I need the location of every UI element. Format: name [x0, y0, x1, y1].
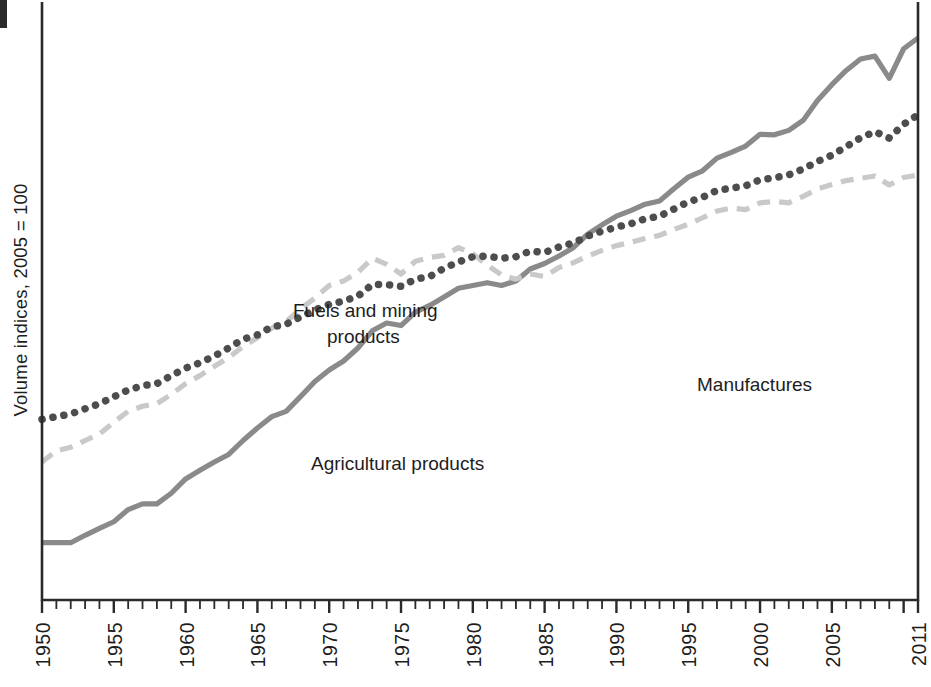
x-tick-label-2000: 2000: [750, 622, 772, 667]
x-tick-label-1985: 1985: [535, 622, 557, 667]
x-tick-label-1975: 1975: [391, 622, 413, 667]
series-label-agricultural: Agricultural products: [311, 453, 484, 474]
x-tick-label-2005: 2005: [822, 622, 844, 667]
x-tick-label-2011: 2011: [908, 622, 930, 666]
x-tick-label-1990: 1990: [606, 622, 628, 667]
x-tick-label-1955: 1955: [104, 622, 126, 667]
series-label-fuels-line1: Fuels and mining: [293, 300, 438, 321]
x-tick-label-1950: 1950: [32, 622, 54, 667]
x-tick-label-1980: 1980: [463, 622, 485, 667]
line-chart-plot: 1950195519601965197019751980198519901995…: [0, 0, 931, 687]
series-label-manufactures: Manufactures: [697, 374, 812, 395]
series-line-fuels-and-mining-products: [42, 175, 918, 462]
annotation-layer: Fuels and mining products Agricultural p…: [293, 300, 812, 474]
x-tick-label-1970: 1970: [319, 622, 341, 667]
x-tick-label-1960: 1960: [176, 622, 198, 667]
chart-figure: Volume indices, 2005 = 100 1950195519601…: [0, 0, 931, 687]
axis-layer: 1950195519601965197019751980198519901995…: [32, 2, 930, 667]
x-tick-label-1965: 1965: [247, 622, 269, 667]
x-tick-label-1995: 1995: [678, 622, 700, 667]
series-label-fuels-line2: products: [327, 326, 400, 347]
